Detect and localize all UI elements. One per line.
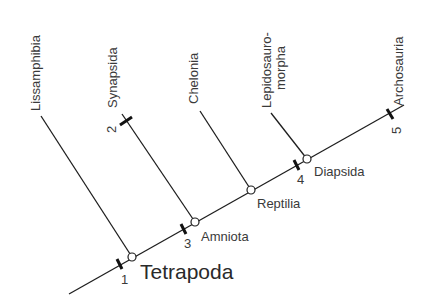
marker-number-4: 4	[297, 172, 304, 187]
node-diapsida	[303, 155, 311, 163]
marker-number-1: 1	[121, 272, 128, 287]
node-amniota	[191, 218, 199, 226]
node-label-diapsida: Diapsida	[314, 164, 365, 179]
marker-number-5: 5	[389, 127, 404, 134]
branch-lissamphibia	[41, 116, 132, 257]
node-reptilia	[247, 186, 255, 194]
taxon-label-lissamphibia: Lissamphibia	[28, 34, 43, 111]
node-label-amniota: Amniota	[201, 229, 249, 244]
node-tetrapoda	[128, 253, 136, 261]
marker-number-2: 2	[104, 126, 119, 133]
taxon-label-synapsida: Synapsida	[105, 47, 120, 108]
node-label-reptilia: Reptilia	[257, 196, 301, 211]
marker-number-3: 3	[184, 236, 191, 251]
node-label-tetrapoda: Tetrapoda	[140, 260, 234, 283]
taxon-label-lepidosauromorpha-line2: morpha	[273, 45, 288, 90]
cladogram: Lissamphibia Synapsida Chelonia Lepidosa…	[0, 0, 423, 307]
branch-chelonia	[200, 111, 251, 190]
taxon-label-lepidosauromorpha-line1: Lepidosauro-	[259, 32, 274, 108]
taxon-label-chelonia: Chelonia	[186, 52, 201, 104]
branch-synapsida	[122, 114, 195, 222]
taxon-label-archosauria: Archosauria	[391, 36, 406, 106]
branch-lepidosauromorpha	[271, 113, 307, 159]
marker-tick-2	[120, 117, 132, 125]
